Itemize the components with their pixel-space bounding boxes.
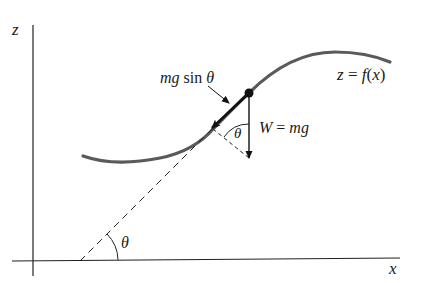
tangent-dashed-line — [80, 128, 213, 261]
weight-angle-theta: θ — [234, 125, 242, 141]
tangential-label-mg: mg — [160, 69, 180, 87]
weight-label-eq: = — [272, 119, 289, 136]
tangential-label-theta: θ — [206, 69, 214, 86]
curve-label-paren-close: ) — [380, 65, 386, 84]
diagram-canvas: z x mg sin θ z = f(x) W = mg θ θ — [0, 0, 422, 283]
tangential-force-arrow — [212, 93, 249, 128]
curve-label-eq: = — [344, 65, 362, 84]
incline-angle-arc — [107, 234, 118, 260]
x-axis — [12, 258, 400, 261]
point-mass-dot — [245, 89, 254, 98]
label-pointer-arrow — [208, 86, 229, 103]
weight-label: W = mg — [259, 119, 309, 137]
tangential-force-label: mg sin θ — [160, 69, 214, 87]
weight-label-mg: mg — [289, 119, 309, 137]
incline-angle-theta: θ — [121, 234, 129, 251]
perpendicular-dashed-line — [213, 129, 249, 158]
z-axis-label: z — [11, 20, 19, 39]
tangential-label-sin: sin — [180, 69, 207, 86]
curve-label: z = f(x) — [336, 65, 385, 84]
x-axis-label: x — [388, 259, 397, 278]
force-diagram: z x mg sin θ z = f(x) W = mg θ θ — [0, 0, 422, 283]
